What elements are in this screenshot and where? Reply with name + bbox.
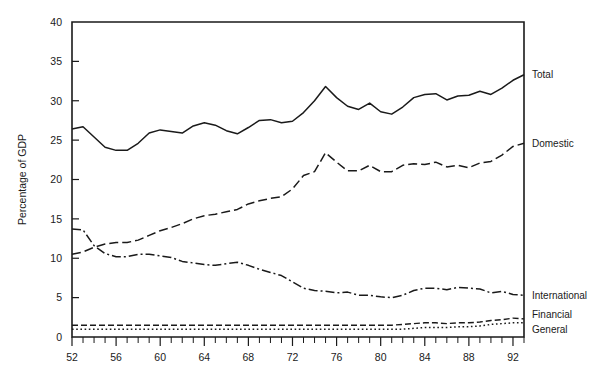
- x-tick-label: 72: [287, 351, 299, 363]
- y-tick-label: 40: [50, 16, 62, 28]
- y-axis-title: Percentage of GDP: [16, 134, 28, 225]
- y-tick-label: 20: [50, 173, 62, 185]
- chart-root: 05101520253035405256606468727680848892Pe…: [0, 0, 605, 377]
- y-tick-label: 15: [50, 213, 62, 225]
- y-tick-label: 5: [56, 291, 62, 303]
- y-tick-label: 0: [56, 331, 62, 343]
- plot-frame: [72, 22, 524, 337]
- x-tick-label: 68: [243, 351, 255, 363]
- y-tick-label: 10: [50, 252, 62, 264]
- series-label-total: Total: [532, 69, 553, 80]
- y-tick-label: 30: [50, 95, 62, 107]
- series-line-total: [72, 75, 524, 151]
- x-tick-label: 92: [507, 351, 519, 363]
- x-tick-label: 60: [154, 351, 166, 363]
- y-tick-label: 35: [50, 55, 62, 67]
- x-tick-label: 80: [375, 351, 387, 363]
- line-chart: 05101520253035405256606468727680848892Pe…: [0, 0, 605, 377]
- series-line-general: [72, 323, 524, 329]
- series-label-general: General: [532, 324, 568, 335]
- x-tick-label: 52: [66, 351, 78, 363]
- series-label-financial: Financial: [532, 309, 572, 320]
- x-tick-label: 84: [419, 351, 431, 363]
- series-label-international: International: [532, 290, 587, 301]
- x-tick-label: 64: [198, 351, 210, 363]
- series-line-domestic: [72, 143, 524, 254]
- y-tick-label: 25: [50, 134, 62, 146]
- x-tick-label: 56: [110, 351, 122, 363]
- x-tick-label: 88: [463, 351, 475, 363]
- series-line-financial: [72, 318, 524, 325]
- x-tick-label: 76: [331, 351, 343, 363]
- series-label-domestic: Domestic: [532, 138, 574, 149]
